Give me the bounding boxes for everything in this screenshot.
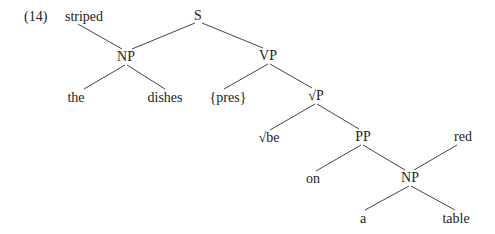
node-pres: {pres} [210,91,247,105]
node-s: S [194,9,202,23]
node-table: table [442,212,469,226]
edge-pp-np2 [363,145,405,170]
node-root-be: √be [259,131,280,145]
edge-striped-np1 [78,24,122,49]
node-pp: PP [355,130,371,144]
edge-np1-the [84,65,125,89]
edge-vp-pres [224,64,268,89]
node-on: on [306,172,320,186]
node-vp: VP [259,49,277,63]
edge-red-np2 [414,145,457,170]
node-the: the [67,91,84,105]
edge-s-vp [202,23,263,48]
edge-np2-a [365,186,409,210]
edge-pp-on [316,145,361,171]
tree-edges [0,0,495,234]
node-np-object: NP [401,171,419,185]
edge-vp-rootp [270,64,312,88]
edge-rootp-pp [317,104,359,129]
edge-np2-table [411,186,455,210]
node-red: red [454,130,472,144]
edge-s-np1 [132,23,195,49]
node-dishes: dishes [148,91,183,105]
node-a: a [360,212,366,226]
node-np-subject: NP [117,50,135,64]
edge-rootp-be [270,104,315,130]
edge-np1-dishes [127,65,165,89]
node-striped: striped [65,10,103,24]
node-root-p: √P [308,89,323,103]
